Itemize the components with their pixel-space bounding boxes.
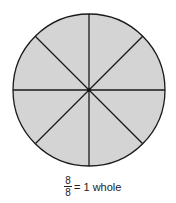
center-dot: [87, 88, 91, 92]
fraction-circle: [0, 0, 176, 203]
caption-text: = 1 whole: [74, 181, 121, 193]
denominator: 8: [65, 188, 71, 197]
caption: 8 8 = 1 whole: [64, 176, 121, 197]
fraction: 8 8: [64, 176, 72, 197]
numerator: 8: [65, 176, 71, 185]
